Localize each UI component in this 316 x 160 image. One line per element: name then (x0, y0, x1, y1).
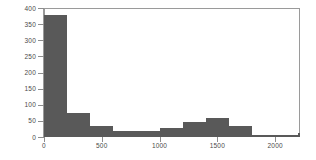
x-axis-tick-label: 500 (82, 142, 122, 150)
histogram-bars (44, 8, 300, 137)
x-axis-tick-label: 1500 (197, 142, 237, 150)
histogram-bar (206, 118, 229, 137)
y-axis-tick-label: 350 (0, 21, 36, 28)
x-axis-tick-label: 1000 (140, 142, 180, 150)
histogram-bar (67, 113, 90, 137)
y-axis-tick-label: 100 (0, 101, 36, 108)
y-axis-tick-label-text: 400 (0, 5, 36, 12)
histogram-bar (229, 126, 252, 137)
x-axis-tick-label: 0 (24, 142, 64, 150)
y-axis-tick-label-text: 300 (0, 37, 36, 44)
y-axis-tick-label-text: 150 (0, 85, 36, 92)
y-axis-tick-label-text: 250 (0, 53, 36, 60)
histogram-bar (90, 126, 113, 137)
y-axis-tick-label-text: 350 (0, 21, 36, 28)
histogram-bar (113, 131, 136, 137)
x-axis-tick-label-text: 0 (24, 142, 64, 150)
y-axis-tick-label-text: 100 (0, 101, 36, 108)
y-axis-tick-label: 300 (0, 37, 36, 44)
x-axis-tick-label-text: 2000 (255, 142, 295, 150)
histogram-bar (275, 135, 298, 137)
histogram-bar (136, 131, 159, 137)
x-axis-tick-label: 2000 (255, 142, 295, 150)
y-axis-tick-label: 50 (0, 117, 36, 124)
y-axis-tick-label: 200 (0, 69, 36, 76)
y-axis-tick-label: 0 (0, 134, 36, 141)
histogram-bar (298, 133, 300, 137)
y-axis-tick-label: 150 (0, 85, 36, 92)
histogram-bar (252, 135, 275, 137)
x-axis-tick-label-text: 1500 (197, 142, 237, 150)
histogram-bar (44, 15, 67, 137)
histogram-figure: 050100150200250300350400 050010001500200… (0, 0, 316, 160)
x-axis-tick-label-text: 1000 (140, 142, 180, 150)
y-axis-tick-label: 400 (0, 5, 36, 12)
y-axis-tick-label-text: 200 (0, 69, 36, 76)
y-axis-tick-label: 250 (0, 53, 36, 60)
y-axis-tick-label-text: 50 (0, 117, 36, 124)
x-axis-tick-label-text: 500 (82, 142, 122, 150)
y-axis-tick-label-text: 0 (0, 134, 36, 141)
histogram-bar (183, 122, 206, 137)
histogram-bar (160, 128, 183, 137)
